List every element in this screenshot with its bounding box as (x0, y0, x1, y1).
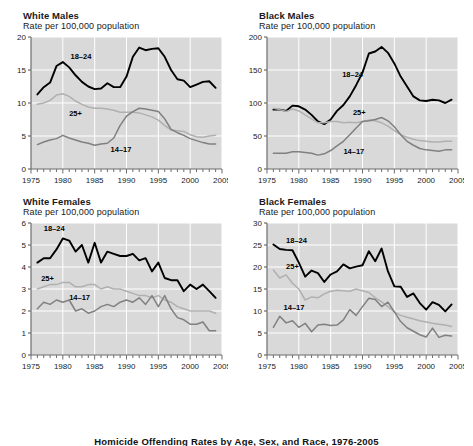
panel-subtitle: Rate per 100,000 population (259, 21, 464, 32)
svg-text:2005: 2005 (213, 176, 228, 185)
svg-text:2005: 2005 (449, 176, 464, 185)
series-annotation: 25+ (41, 274, 54, 283)
panel-title: Black Males (259, 10, 464, 21)
svg-text:2000: 2000 (181, 362, 199, 371)
svg-text:1980: 1980 (290, 362, 308, 371)
panel-black-males: Black Males Rate per 100,000 population … (242, 10, 464, 198)
svg-text:1980: 1980 (54, 176, 72, 185)
svg-text:15: 15 (253, 285, 262, 294)
series-annotation: 14–17 (111, 145, 132, 154)
svg-text:1975: 1975 (22, 362, 40, 371)
svg-text:5: 5 (22, 132, 27, 141)
svg-text:1985: 1985 (86, 176, 104, 185)
svg-text:10: 10 (17, 99, 26, 108)
svg-text:1990: 1990 (118, 176, 136, 185)
svg-text:200: 200 (249, 33, 263, 42)
svg-text:6: 6 (22, 219, 27, 228)
panel-subtitle: Rate per 100,000 population (23, 207, 228, 218)
panel-title: White Males (23, 10, 228, 21)
svg-text:150: 150 (249, 66, 263, 75)
svg-text:2005: 2005 (213, 362, 228, 371)
svg-text:3: 3 (22, 285, 27, 294)
panel-subtitle: Rate per 100,000 population (259, 207, 464, 218)
svg-text:1990: 1990 (354, 176, 372, 185)
svg-text:2000: 2000 (417, 176, 435, 185)
svg-text:4: 4 (22, 263, 27, 272)
svg-text:1995: 1995 (149, 176, 167, 185)
svg-text:1975: 1975 (22, 176, 40, 185)
panel-white-females: White Females Rate per 100,000 populatio… (6, 196, 228, 384)
svg-text:1980: 1980 (290, 176, 308, 185)
series-annotation: 18–24 (70, 52, 92, 61)
svg-text:2005: 2005 (449, 362, 464, 371)
series-annotation: 18–24 (286, 236, 308, 245)
svg-text:5: 5 (22, 241, 27, 250)
svg-text:1985: 1985 (322, 362, 340, 371)
svg-text:1975: 1975 (258, 176, 276, 185)
series-annotation: 25+ (286, 262, 299, 271)
svg-text:1975: 1975 (258, 362, 276, 371)
svg-text:1985: 1985 (86, 362, 104, 371)
svg-text:1995: 1995 (385, 362, 403, 371)
svg-text:5: 5 (258, 329, 263, 338)
panel-black-females: Black Females Rate per 100,000 populatio… (242, 196, 464, 384)
series-annotation: 14–17 (69, 293, 90, 302)
svg-text:2000: 2000 (417, 362, 435, 371)
svg-text:1995: 1995 (385, 176, 403, 185)
svg-text:1995: 1995 (149, 362, 167, 371)
series-annotation: 25+ (69, 109, 82, 118)
svg-text:100: 100 (249, 99, 263, 108)
svg-text:1990: 1990 (354, 362, 372, 371)
series-annotation: 18–24 (44, 224, 66, 233)
svg-text:0: 0 (258, 351, 263, 360)
plot-area-black-females: 0510152025301975198019851990199520002005… (242, 219, 464, 379)
figure-caption: Homicide Offending Rates by Age, Sex, an… (0, 436, 473, 446)
svg-text:1985: 1985 (322, 176, 340, 185)
svg-text:2: 2 (22, 307, 27, 316)
svg-text:20: 20 (253, 263, 262, 272)
series-annotation: 14–17 (284, 303, 305, 312)
panel-subtitle: Rate per 100,000 population (23, 21, 228, 32)
plot-area-white-males: 05101520197519801985199019952000200518–2… (6, 33, 228, 193)
series-annotation: 18–24 (342, 70, 364, 79)
panel-title: White Females (23, 196, 228, 207)
svg-text:0: 0 (22, 351, 27, 360)
svg-text:1980: 1980 (54, 362, 72, 371)
panel-title: Black Females (259, 196, 464, 207)
svg-text:0: 0 (258, 165, 263, 174)
svg-text:15: 15 (17, 66, 26, 75)
svg-text:10: 10 (253, 307, 262, 316)
svg-text:30: 30 (253, 219, 262, 228)
svg-text:2000: 2000 (181, 176, 199, 185)
svg-text:1990: 1990 (118, 362, 136, 371)
svg-text:1: 1 (22, 329, 27, 338)
svg-text:20: 20 (17, 33, 26, 42)
series-annotation: 14–17 (343, 147, 364, 156)
svg-text:25: 25 (253, 241, 262, 250)
svg-text:0: 0 (22, 165, 27, 174)
series-annotation: 25+ (353, 108, 366, 117)
plot-area-white-females: 0123456197519801985199019952000200518–24… (6, 219, 228, 379)
panel-white-males: White Males Rate per 100,000 population … (6, 10, 228, 198)
plot-area-black-males: 0501001502001975198019851990199520002005… (242, 33, 464, 193)
svg-text:50: 50 (253, 132, 262, 141)
